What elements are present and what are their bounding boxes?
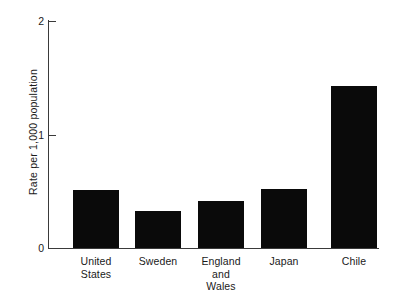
bar <box>135 211 181 248</box>
y-tick-mark <box>49 21 56 22</box>
x-axis-category-label-line: and <box>176 268 266 281</box>
y-tick-label-text: 1 <box>4 130 44 140</box>
y-tick-mark <box>49 135 56 136</box>
x-axis-category-label-line: States <box>51 268 141 281</box>
bar <box>261 189 307 248</box>
bar <box>331 86 377 248</box>
y-tick-label: 1 <box>0 130 44 140</box>
x-axis-category-label: Chile <box>309 255 395 268</box>
y-tick-label: 0 <box>0 243 44 253</box>
y-tick-label-text: 0 <box>4 243 44 253</box>
x-axis-category-label-line: Wales <box>176 280 266 293</box>
bar-chart-figure: Rate per 1,000 population 012 UnitedStat… <box>0 0 395 300</box>
y-tick-mark <box>49 248 56 249</box>
y-tick-label: 2 <box>0 16 44 26</box>
y-tick-label-text: 2 <box>4 16 44 26</box>
bar <box>198 201 244 248</box>
x-axis-category-label-line: Chile <box>309 255 395 268</box>
bar <box>73 190 119 248</box>
x-axis-spine <box>48 248 379 249</box>
